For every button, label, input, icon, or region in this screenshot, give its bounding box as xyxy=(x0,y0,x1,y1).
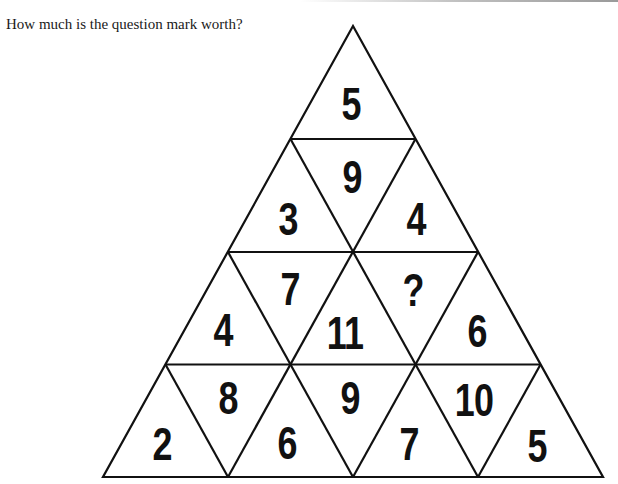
cell-r4-up-1: 2 xyxy=(150,421,175,467)
cell-r4-up-5: 7 xyxy=(397,421,422,467)
cell-r4-down-4: 9 xyxy=(338,375,363,421)
cell-r2-up-3: 4 xyxy=(404,196,429,242)
triangle-grid xyxy=(0,0,618,484)
cell-r3-up-1: 4 xyxy=(211,307,236,353)
cell-r2-down-2: 9 xyxy=(340,154,365,200)
cell-r1-up-1: 5 xyxy=(339,81,364,127)
cell-r3-down-4-question-mark: ? xyxy=(399,267,426,313)
cell-r2-up-1: 3 xyxy=(276,196,301,242)
triangle-puzzle: 5 3 9 4 4 7 11 ? 6 2 8 6 9 7 10 5 xyxy=(0,0,618,484)
cell-r3-up-5: 6 xyxy=(465,308,490,354)
cell-r3-up-3: 11 xyxy=(322,310,369,356)
cell-r4-up-7: 5 xyxy=(525,423,550,469)
cell-r4-down-2: 8 xyxy=(216,375,241,421)
diag-dl-1 xyxy=(228,139,416,477)
diag-dr-1 xyxy=(291,139,479,477)
cell-r3-down-2: 7 xyxy=(278,266,303,312)
cell-r4-up-3: 6 xyxy=(275,420,300,466)
cell-r4-down-6: 10 xyxy=(449,377,498,423)
